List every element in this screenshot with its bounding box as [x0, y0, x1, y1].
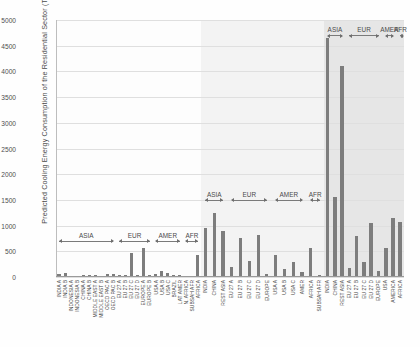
group-bracket-label: AMER [159, 232, 177, 239]
x-tick-label: CHINA A [81, 280, 86, 300]
bar [196, 255, 199, 277]
x-tick-slot: EUROPE [262, 279, 271, 341]
x-tick-label: INDIA [325, 280, 330, 293]
x-tick-label: CHINA B [87, 280, 92, 300]
x-tick-label: USA [383, 280, 388, 290]
bar [333, 197, 337, 277]
bar [248, 261, 251, 277]
x-tick-slot: EU 27 B [236, 279, 245, 341]
group-bracket-label: AMER [280, 191, 298, 198]
bar [309, 248, 312, 277]
bar [274, 255, 277, 277]
x-tick-label: EU 27 A [347, 280, 352, 298]
bar [362, 262, 366, 277]
bar-slot [236, 20, 245, 277]
bar-series-middle [201, 20, 324, 277]
bar-slot [389, 20, 396, 277]
bar-slot [368, 20, 375, 277]
x-tick-label: INDONESIA B [75, 280, 80, 312]
x-tick-label: EU 27 D [135, 280, 140, 299]
bar [355, 236, 359, 277]
x-tick-label: INDIA [203, 280, 208, 293]
x-tick-label: EUROPE [376, 280, 381, 301]
y-tick-label: 1000 [0, 222, 16, 229]
x-tick-label: AFRICA [397, 280, 402, 298]
y-tick-label: 0 [0, 274, 16, 281]
bar-slot [315, 20, 324, 277]
x-tick-label: BRAZIL [171, 280, 176, 297]
x-tick-label: CHINA [211, 280, 216, 295]
group-bracket-label: ASIA [207, 191, 222, 198]
x-tick-slot: CHINA [210, 279, 219, 341]
group-bracket-label: EUR [128, 232, 142, 239]
group-bracket [119, 241, 149, 242]
x-tick-slot: REST ASIA [338, 279, 345, 341]
x-tick-slot: AFRICA [306, 279, 315, 341]
x-tick-slot: EU 27 A [227, 279, 236, 341]
x-tick-slot: EU 27 D [367, 279, 374, 341]
x-tick-slot: AMER [297, 279, 306, 341]
group-bracket-label: EUR [243, 191, 257, 198]
y-tick-label: 5000 [0, 17, 16, 24]
x-tick-label: AFRICA [308, 280, 313, 298]
plot-area: ASIAEURAMERAFR ASIAEURAMERAFR ASIAEURAME… [56, 20, 404, 277]
bar [204, 228, 207, 277]
bar-slot [298, 20, 307, 277]
x-tick-label: CHINA [332, 280, 337, 295]
x-tick-slot: CHINA [331, 279, 338, 341]
bar-slot [201, 20, 210, 277]
group-bracket-label: AFR [394, 26, 407, 33]
x-tick-slot: INDIA [324, 279, 331, 341]
x-tick-slot: AFRICA [396, 279, 403, 341]
x-tick-label: EU 27 A [117, 280, 122, 298]
x-tick-slot: USA C [289, 279, 298, 341]
x-tick-slot: USA B [280, 279, 289, 341]
bar-slot [375, 20, 382, 277]
x-tick-label: SUBSAH AFR [317, 280, 322, 311]
x-tick-label: EUROPE A [141, 280, 146, 305]
y-axis-title: Predicted Cooling Energy Consumption of … [40, 0, 49, 245]
bar [384, 248, 388, 277]
bar-slot [397, 20, 404, 277]
bar-slot [254, 20, 263, 277]
y-tick-label: 2000 [0, 171, 16, 178]
x-tick-slot: EU 27 C [245, 279, 254, 341]
x-tick-label: EU 27 A [229, 280, 234, 298]
bar-slot [271, 20, 280, 277]
x-tick-label: SUBSAH AFR [189, 280, 194, 311]
group-bracket-label: ASIA [328, 26, 343, 33]
x-tick-slot: EU 27 D [253, 279, 262, 341]
y-tick-label: 500 [0, 248, 16, 255]
x-tick-label: REST ASIA [339, 280, 344, 306]
bar-slot [324, 20, 331, 277]
x-tick-label: OECD PAC B [111, 280, 116, 310]
group-bracket [328, 35, 343, 36]
x-tick-label: EU 27 C [129, 280, 134, 299]
x-tick-label: USA A [153, 280, 158, 294]
bar [213, 213, 216, 277]
bar [221, 231, 224, 277]
x-axis-line [56, 276, 404, 277]
group-bracket-label: AFR [309, 191, 322, 198]
grid-line [56, 277, 404, 278]
bar-slot [331, 20, 338, 277]
bar-slot [262, 20, 271, 277]
bar-slot [360, 20, 367, 277]
bar-slot [289, 20, 298, 277]
bar-slot [306, 20, 315, 277]
group-bracket [186, 241, 198, 242]
x-tick-label: MIDDLE EAST B [99, 280, 104, 318]
bar-slot [346, 20, 353, 277]
x-tick-label: INDONESIA A [69, 280, 74, 312]
x-tick-slot: EU 27 C [360, 279, 367, 341]
bar-slot [353, 20, 360, 277]
x-tick-label: EU 27 B [354, 280, 359, 299]
group-bracket-label: EUR [357, 26, 371, 33]
x-tick-slot: AMERICA [389, 279, 396, 341]
x-tick-slot: REST ASIA [218, 279, 227, 341]
bar [326, 38, 330, 277]
x-tick-slot: USA A [271, 279, 280, 341]
x-tick-slot: SUBSAH AFR [315, 279, 324, 341]
bar-slot [210, 20, 219, 277]
bar-slot [227, 20, 236, 277]
